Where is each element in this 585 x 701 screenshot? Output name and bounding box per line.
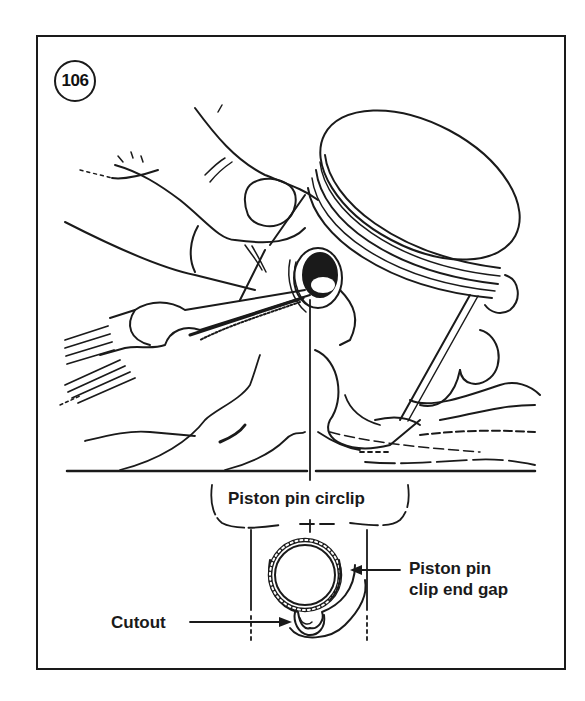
label-gap-line1: Piston pin xyxy=(409,558,508,579)
label-gap-line2: clip end gap xyxy=(409,579,508,600)
label-piston-pin-clip-end-gap: Piston pin clip end gap xyxy=(409,558,508,600)
cutout-arrow xyxy=(190,617,292,627)
arrow-left-icon xyxy=(350,565,362,575)
pliers-drawing xyxy=(60,290,310,405)
hand-drawing xyxy=(65,105,318,290)
gap-arrow xyxy=(350,565,400,575)
label-cutout: Cutout xyxy=(111,612,166,633)
arrow-right-icon xyxy=(279,617,292,627)
supporting-hand-drawing xyxy=(330,275,540,452)
label-piston-pin-circlip: Piston pin circlip xyxy=(228,488,365,509)
piston-drawing xyxy=(240,80,544,449)
